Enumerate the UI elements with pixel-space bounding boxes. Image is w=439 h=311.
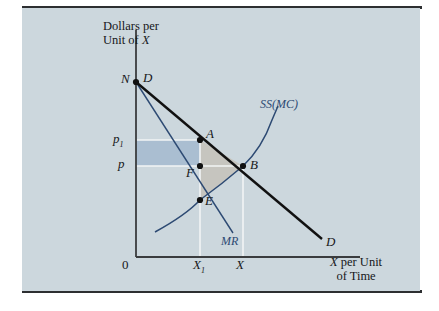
point-label-e: E: [205, 194, 213, 208]
quantity-label-x1-base: X: [193, 257, 201, 272]
y-axis-title-line2-prefix: Unit of: [103, 33, 142, 47]
y-axis-title: Dollars per Unit of X: [103, 20, 159, 47]
point-a: [197, 137, 203, 143]
demand-curve-label-top: D: [143, 71, 152, 85]
quantity-label-x: X: [236, 258, 244, 272]
point-b: [240, 163, 246, 169]
point-label-f: F: [186, 166, 194, 180]
marginal-revenue-label: MR: [221, 235, 238, 248]
x-axis-title-line2: of Time: [336, 269, 375, 283]
point-label-b: B: [250, 158, 258, 172]
quantity-label-x1-subscript: 1: [201, 266, 205, 275]
quantity-label-x1: X1: [193, 258, 205, 275]
x-axis-title-line1-rest: per Unit: [338, 255, 382, 269]
y-axis-title-variable: X: [142, 33, 150, 47]
price-label-p1-subscript: 1: [120, 140, 124, 149]
point-n: [133, 79, 139, 85]
point-e: [197, 197, 203, 203]
supply-curve-label: SS(MC): [260, 98, 298, 111]
x-axis-title: X per Unit of Time: [330, 256, 382, 283]
consumer-transfer-rectangle: [136, 140, 200, 166]
point-f: [197, 163, 203, 169]
price-label-p: p: [118, 157, 125, 171]
x-axis-title-variable: X: [330, 255, 338, 269]
demand-curve-label-end: D: [326, 235, 335, 249]
point-label-a: A: [206, 127, 214, 141]
y-axis-title-line1: Dollars per: [103, 19, 159, 33]
figure-page: Dollars per Unit of X X per Unit of Time…: [0, 0, 439, 311]
origin-label: 0: [122, 258, 129, 272]
point-label-n: N: [121, 72, 130, 86]
price-label-p1: p1: [113, 132, 124, 149]
